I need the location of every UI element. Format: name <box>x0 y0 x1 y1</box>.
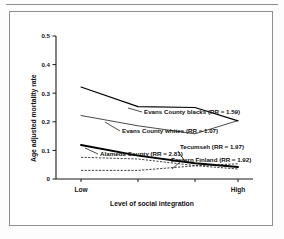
y-tick-label-0: 0 <box>47 175 51 182</box>
series-label-eastern-finland: Eastern Finland (RR = 1.92) <box>171 156 251 163</box>
y-tick-label-1: 0.1 <box>41 147 50 154</box>
y-axis-title: Age adjusted mortality rate <box>30 74 38 162</box>
y-tick-label-4: 0.4 <box>41 61 50 68</box>
y-tick-label-3: 0.3 <box>41 90 50 97</box>
page-root: 0.5 0.4 0.3 0.2 0.1 0 Age adjusted morta… <box>0 0 284 239</box>
y-tick-label-2: 0.2 <box>41 118 50 125</box>
series-label-tecumseh: Tecumseh (RR = 1.97) <box>180 143 244 150</box>
x-tick-label-low: Low <box>74 186 88 193</box>
series-line-evans-county-blacks <box>81 87 238 121</box>
y-tick-label-5: 0.5 <box>41 32 50 39</box>
series-label-evans-county-whites: Evans County whites (RR = 1.07) <box>122 127 218 134</box>
chart-plot-area: 0.5 0.4 0.3 0.2 0.1 0 Age adjusted morta… <box>10 12 274 227</box>
x-axis-title: Level of social integration <box>110 200 194 208</box>
series-label-evans-county-blacks: Evans County blacks (RR = 1.59) <box>144 108 240 115</box>
leader-evans-county-blacks <box>128 108 142 112</box>
line-chart: 0.5 0.4 0.3 0.2 0.1 0 Age adjusted morta… <box>10 12 274 227</box>
x-tick-label-high: High <box>231 186 246 194</box>
leader-evans-county-whites <box>105 122 120 131</box>
top-divider-rule <box>6 4 278 5</box>
leader-alameda-county <box>85 148 98 154</box>
figure-frame: 0.5 0.4 0.3 0.2 0.1 0 Age adjusted morta… <box>9 11 273 226</box>
